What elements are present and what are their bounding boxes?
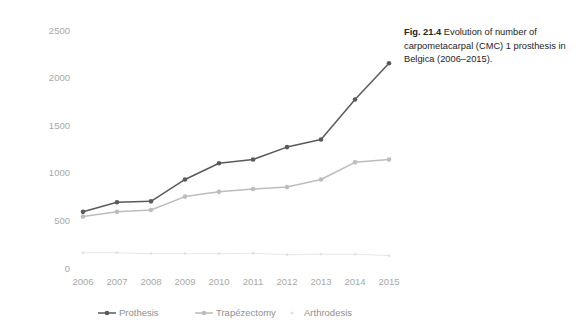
x-tick-label: 2011 bbox=[243, 276, 263, 287]
series-line bbox=[83, 253, 389, 256]
x-tick-label: 2012 bbox=[276, 276, 297, 287]
data-point bbox=[388, 254, 391, 257]
figure-caption: Fig. 21.4 Evolution of number of carpome… bbox=[404, 26, 584, 67]
data-point bbox=[115, 200, 120, 205]
data-point bbox=[184, 252, 187, 255]
series-line bbox=[83, 63, 389, 212]
data-point bbox=[320, 253, 323, 256]
data-point bbox=[319, 177, 324, 182]
chart-panel: 05001000150020002500 2006200720082009201… bbox=[0, 8, 400, 330]
x-tick-label: 2008 bbox=[140, 276, 161, 287]
data-point bbox=[149, 208, 154, 213]
data-point bbox=[251, 157, 256, 162]
y-tick-label: 1500 bbox=[49, 120, 70, 131]
y-tick-label: 2000 bbox=[49, 72, 70, 83]
data-point bbox=[353, 160, 358, 165]
data-point bbox=[252, 252, 255, 255]
legend-label: Prothesis bbox=[119, 307, 159, 318]
data-point bbox=[217, 161, 222, 166]
data-point bbox=[285, 145, 290, 150]
data-point bbox=[82, 251, 85, 254]
data-point bbox=[81, 210, 86, 215]
data-point bbox=[387, 61, 392, 66]
legend-label: Trapézectomy bbox=[216, 307, 276, 318]
x-tick-label: 2014 bbox=[344, 276, 365, 287]
x-tick-label: 2010 bbox=[208, 276, 229, 287]
x-tick-label: 2007 bbox=[106, 276, 127, 287]
y-tick-label: 0 bbox=[65, 263, 70, 274]
legend-item-0[interactable]: Prothesis bbox=[98, 307, 159, 318]
line-chart: 05001000150020002500 2006200720082009201… bbox=[0, 8, 400, 330]
x-tick-label: 2013 bbox=[310, 276, 331, 287]
y-tick-label: 1000 bbox=[49, 167, 70, 178]
legend-item-1[interactable]: Trapézectomy bbox=[195, 307, 276, 318]
data-point bbox=[218, 252, 221, 255]
data-point bbox=[116, 251, 119, 254]
x-tick-label: 2015 bbox=[378, 276, 399, 287]
data-point bbox=[149, 199, 154, 204]
series-line bbox=[83, 159, 389, 216]
series-2 bbox=[82, 251, 391, 257]
series-0 bbox=[81, 61, 392, 214]
data-point bbox=[353, 97, 358, 102]
data-point bbox=[285, 185, 290, 190]
caption-figure-number: Fig. 21.4 bbox=[404, 27, 441, 37]
y-tick-label: 500 bbox=[54, 215, 70, 226]
data-point bbox=[217, 190, 222, 195]
legend-marker bbox=[202, 311, 207, 316]
data-point bbox=[183, 194, 188, 199]
data-point bbox=[150, 252, 153, 255]
legend-item-2[interactable]: Arthrodesis bbox=[290, 307, 352, 318]
data-point bbox=[115, 210, 120, 215]
series-1 bbox=[81, 157, 392, 219]
data-point bbox=[183, 177, 188, 182]
data-point bbox=[251, 187, 256, 192]
x-tick-label: 2006 bbox=[72, 276, 93, 287]
chart-legend: ProthesisTrapézectomyArthrodesis bbox=[98, 307, 352, 318]
data-point bbox=[354, 253, 357, 256]
legend-marker bbox=[290, 311, 293, 314]
x-axis-tick-labels: 2006200720082009201020112012201320142015 bbox=[72, 276, 399, 287]
x-tick-label: 2009 bbox=[174, 276, 195, 287]
y-axis-tick-labels: 05001000150020002500 bbox=[49, 25, 70, 274]
y-tick-label: 2500 bbox=[49, 25, 70, 36]
legend-marker bbox=[105, 311, 110, 316]
data-point bbox=[319, 137, 324, 142]
data-series-layer bbox=[81, 61, 392, 257]
data-point bbox=[81, 214, 86, 219]
data-point bbox=[286, 253, 289, 256]
legend-label: Arthrodesis bbox=[304, 307, 352, 318]
data-point bbox=[387, 157, 392, 162]
figure-container: 05001000150020002500 2006200720082009201… bbox=[0, 0, 588, 335]
